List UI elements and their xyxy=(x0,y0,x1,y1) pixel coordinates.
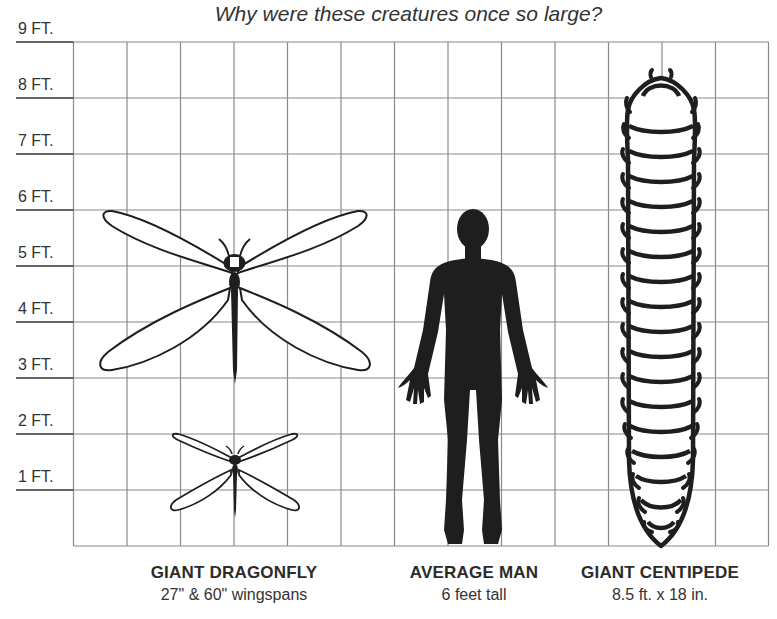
y-label-9ft: 9 FT. xyxy=(18,20,54,38)
caption-title: GIANT DRAGONFLY xyxy=(134,563,334,583)
caption-dragonfly: GIANT DRAGONFLY 27" & 60" wingspans xyxy=(134,563,334,604)
y-label-1ft: 1 FT. xyxy=(18,468,54,486)
y-label-2ft: 2 FT. xyxy=(18,412,54,430)
small-dragonfly-body xyxy=(229,455,241,518)
caption-subtitle: 8.5 ft. x 18 in. xyxy=(560,586,760,604)
caption-subtitle: 27" & 60" wingspans xyxy=(134,586,334,604)
human-silhouette-icon xyxy=(398,209,548,544)
caption-title: AVERAGE MAN xyxy=(394,563,554,583)
y-label-3ft: 3 FT. xyxy=(18,356,54,374)
y-label-6ft: 6 FT. xyxy=(18,188,54,206)
dragonfly-body xyxy=(224,254,246,384)
centipede-icon xyxy=(627,78,695,546)
y-label-8ft: 8 FT. xyxy=(18,76,54,94)
y-label-4ft: 4 FT. xyxy=(18,300,54,318)
caption-title: GIANT CENTIPEDE xyxy=(560,563,760,583)
caption-centipede: GIANT CENTIPEDE 8.5 ft. x 18 in. xyxy=(560,563,760,604)
y-label-5ft: 5 FT. xyxy=(18,244,54,262)
caption-man: AVERAGE MAN 6 feet tall xyxy=(394,563,554,604)
y-label-7ft: 7 FT. xyxy=(18,132,54,150)
size-comparison-grid xyxy=(0,0,777,619)
caption-subtitle: 6 feet tall xyxy=(394,586,554,604)
